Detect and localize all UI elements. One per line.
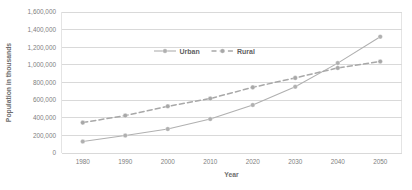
y-tick-label: 1,200,000 <box>28 44 57 51</box>
data-point-rural-2030 <box>293 76 298 81</box>
x-tick-label: 1990 <box>118 158 133 165</box>
chart-container: 0200,000400,000600,000800,0001,000,0001,… <box>0 0 412 190</box>
x-tick-label: 2010 <box>203 158 218 165</box>
legend-label-urban: Urban <box>180 48 200 55</box>
x-axis-tick-labels: 19801990200020102020203020402050 <box>76 158 388 165</box>
y-tick-label: 400,000 <box>33 114 57 121</box>
data-point-rural-2050 <box>378 59 383 64</box>
data-point-urban-2050 <box>378 34 383 39</box>
data-point-urban-2030 <box>293 84 298 89</box>
gridlines <box>62 12 402 153</box>
x-axis-title: Year <box>224 171 239 178</box>
legend-marker-rural <box>220 49 225 54</box>
series-line-rural <box>83 62 381 123</box>
data-point-rural-1990 <box>123 113 128 118</box>
data-point-rural-2040 <box>335 66 340 71</box>
legend-label-rural: Rural <box>237 48 255 55</box>
data-point-rural-2000 <box>165 104 170 109</box>
legend-marker-urban <box>163 49 168 54</box>
series-line-urban <box>83 37 381 142</box>
data-point-urban-2000 <box>165 127 170 132</box>
y-tick-label: 1,400,000 <box>28 26 57 33</box>
x-tick-label: 1980 <box>76 158 91 165</box>
data-point-rural-2010 <box>208 96 213 101</box>
data-point-urban-2020 <box>250 103 255 108</box>
x-tick-label: 2040 <box>331 158 346 165</box>
y-tick-label: 600,000 <box>33 96 57 103</box>
y-tick-label: 1,600,000 <box>28 8 57 15</box>
y-tick-label: 200,000 <box>33 132 57 139</box>
x-tick-label: 2020 <box>246 158 261 165</box>
data-point-urban-1990 <box>123 133 128 138</box>
y-axis-tick-labels: 0200,000400,000600,000800,0001,000,0001,… <box>28 8 57 156</box>
y-tick-label: 0 <box>52 149 56 156</box>
x-tick-label: 2050 <box>373 158 388 165</box>
chart-legend: UrbanRural <box>154 48 255 55</box>
data-point-urban-2010 <box>208 117 213 122</box>
y-axis-title: Population in thousands <box>5 43 13 123</box>
data-point-rural-2020 <box>250 85 255 90</box>
x-tick-label: 2030 <box>288 158 303 165</box>
data-point-rural-1980 <box>80 120 85 125</box>
y-tick-label: 800,000 <box>33 79 57 86</box>
x-tick-label: 2000 <box>161 158 176 165</box>
y-tick-label: 1,000,000 <box>28 61 57 68</box>
population-line-chart: 0200,000400,000600,000800,0001,000,0001,… <box>0 0 412 190</box>
data-point-urban-1980 <box>80 139 85 144</box>
data-point-urban-2040 <box>335 61 340 66</box>
